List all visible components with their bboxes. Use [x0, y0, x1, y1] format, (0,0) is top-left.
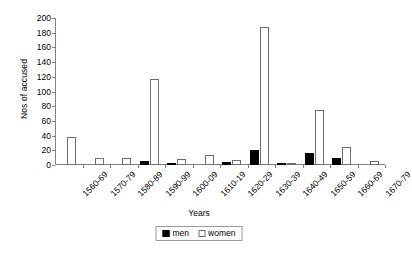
bar-group: [220, 18, 248, 165]
y-tick-label: 200: [37, 14, 51, 23]
y-tick-label: 160: [37, 43, 51, 52]
y-tick-label: 180: [37, 28, 51, 37]
y-tick-label: 0: [46, 161, 51, 170]
bar-women: [150, 79, 159, 165]
bar-women: [95, 158, 104, 165]
x-axis-tick-label: 1630-39: [274, 170, 302, 198]
x-axis-title: Years: [0, 208, 398, 218]
bar-group: [248, 18, 276, 165]
bar-women: [315, 110, 324, 165]
bar-group: [83, 18, 111, 165]
bar-group: [55, 18, 83, 165]
x-tick-mark: [303, 165, 304, 168]
chart-legend: men women: [156, 226, 243, 241]
y-tick-label: 40: [42, 131, 51, 140]
x-tick-mark: [220, 165, 221, 168]
y-tick-label: 120: [37, 73, 51, 82]
y-tick-label: 100: [37, 87, 51, 96]
bar-group: [193, 18, 221, 165]
legend-item-women: women: [198, 229, 235, 238]
y-tick-label: 60: [42, 117, 51, 126]
legend-swatch-women-icon: [198, 230, 205, 237]
y-tick-label: 80: [42, 102, 51, 111]
x-tick-mark: [275, 165, 276, 168]
x-axis-tick-label: 1590-99: [164, 170, 192, 198]
legend-label-women: women: [208, 229, 235, 238]
x-tick-mark: [165, 165, 166, 168]
x-axis-tick-label: 1560-69: [81, 170, 109, 198]
bar-women: [287, 163, 296, 165]
x-tick-mark: [330, 165, 331, 168]
x-tick-mark: [83, 165, 84, 168]
y-tick-label: 140: [37, 58, 51, 67]
bar-men: [167, 163, 176, 165]
x-tick-mark: [193, 165, 194, 168]
x-tick-mark: [110, 165, 111, 168]
bar-men: [332, 158, 341, 165]
bar-women: [177, 159, 186, 165]
y-tick-label: 20: [42, 146, 51, 155]
bar-group: [358, 18, 386, 165]
x-tick-mark: [385, 165, 386, 168]
bar-men: [305, 153, 314, 165]
x-tick-mark: [248, 165, 249, 168]
x-axis-tick-label: 1600-09: [191, 170, 219, 198]
legend-swatch-men-icon: [163, 230, 170, 237]
x-axis-tick-label: 1620-29: [246, 170, 274, 198]
bar-women: [232, 160, 241, 165]
bar-group: [330, 18, 358, 165]
y-tick-mark: [52, 165, 55, 166]
y-axis-title: Nos of accused: [19, 34, 29, 144]
x-axis-tick-label: 1650-59: [329, 170, 357, 198]
x-axis-tick-label: 1610-19: [219, 170, 247, 198]
bar-group: [110, 18, 138, 165]
x-axis-tick-label: 1660-69: [356, 170, 384, 198]
bar-men: [222, 162, 231, 165]
bar-men: [277, 163, 286, 165]
x-axis-tick-label: 1670-79: [384, 170, 412, 198]
bar-group: [165, 18, 193, 165]
x-tick-mark: [358, 165, 359, 168]
bar-group: [303, 18, 331, 165]
bar-women: [260, 27, 269, 165]
legend-label-men: men: [173, 229, 190, 238]
legend-item-men: men: [163, 229, 190, 238]
bar-men: [250, 150, 259, 165]
x-axis-tick-label: 1640-49: [301, 170, 329, 198]
bar-group: [138, 18, 166, 165]
bar-women: [370, 161, 379, 165]
plot-area: 0 20 40 60 80 100 120 140 160 180 200: [55, 18, 385, 165]
bar-women: [122, 158, 131, 165]
x-tick-mark: [138, 165, 139, 168]
bar-group: [275, 18, 303, 165]
bar-men: [140, 161, 149, 165]
bar-women: [67, 137, 76, 165]
bar-women: [342, 147, 351, 165]
bar-women: [205, 155, 214, 165]
x-axis-tick-label: 1580-89: [136, 170, 164, 198]
x-axis-tick-label: 1570-79: [109, 170, 137, 198]
